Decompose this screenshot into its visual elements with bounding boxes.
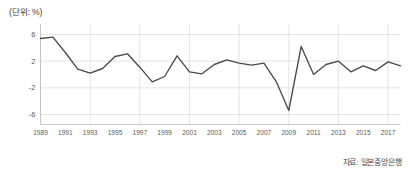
x-axis-tick-label: 2009 — [281, 129, 296, 136]
x-axis-tick-label: 2011 — [307, 129, 322, 136]
x-axis-tick-label: 2013 — [331, 129, 346, 136]
x-axis-tick-label: 2003 — [207, 129, 222, 136]
x-axis-tick-label: 2005 — [232, 129, 247, 136]
x-axis-tick-label: 1997 — [132, 129, 147, 136]
x-axis-tick-label: 2001 — [182, 129, 197, 136]
x-axis-tick-label: 2007 — [257, 129, 272, 136]
x-axis-tick-label: 1999 — [157, 129, 172, 136]
x-axis-tick-label: 1995 — [108, 129, 123, 136]
line-chart-plot: 62-2-61989199119931995199719992001200320… — [0, 0, 411, 175]
x-axis-tick-label: 2015 — [356, 129, 371, 136]
y-axis-tick-label: -6 — [29, 110, 36, 119]
chart-container: (단위: %) 62-2-619891991199319951997199920… — [0, 0, 411, 175]
y-axis-tick-label: 2 — [31, 57, 35, 66]
y-axis-tick-label: 6 — [31, 30, 35, 39]
source-label: 자료: 일본중앙은행 — [343, 156, 402, 167]
y-axis-tick-label: -2 — [29, 83, 36, 92]
x-axis-tick-label: 1993 — [83, 129, 98, 136]
data-series-line — [41, 37, 401, 110]
x-axis-tick-label: 1989 — [33, 129, 48, 136]
x-axis-tick-label: 2017 — [381, 129, 396, 136]
x-axis-tick-label: 1991 — [58, 129, 73, 136]
